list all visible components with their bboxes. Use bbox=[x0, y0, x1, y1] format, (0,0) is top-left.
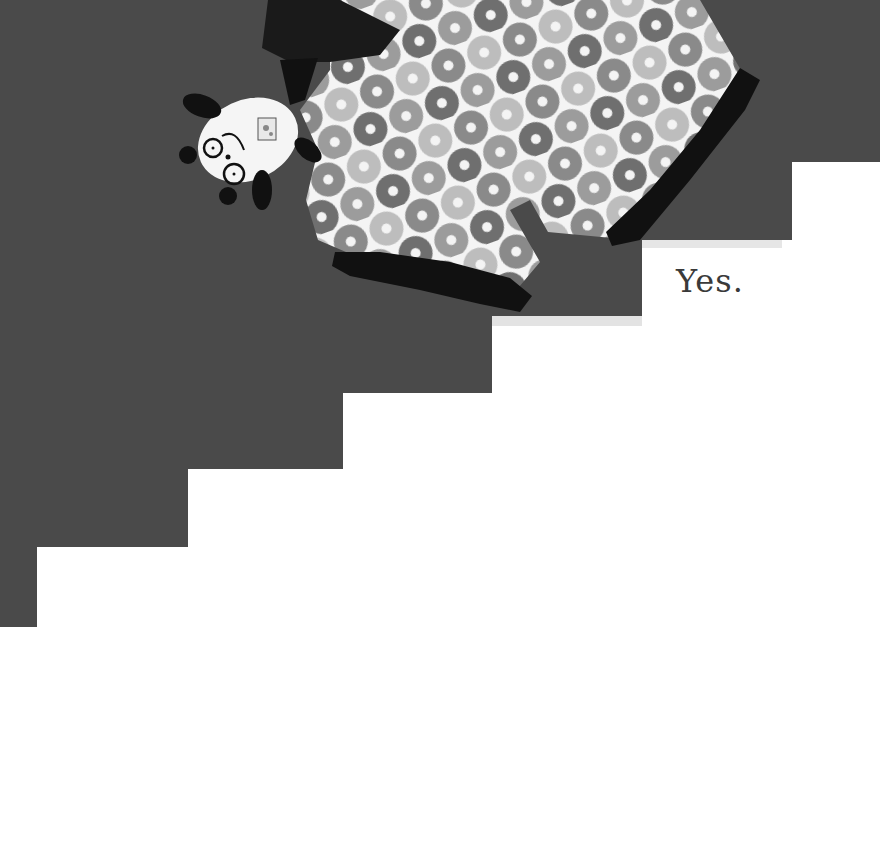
caption-text: Yes. bbox=[676, 262, 744, 300]
storybook-page: Yes. bbox=[0, 0, 880, 851]
staircase-illustration bbox=[0, 0, 880, 851]
